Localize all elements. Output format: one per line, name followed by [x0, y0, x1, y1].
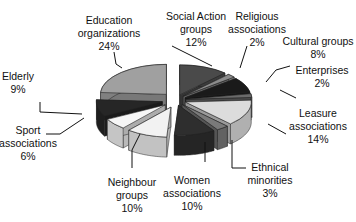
leader-line: [172, 46, 212, 66]
slice-label-line: Religious: [235, 10, 278, 22]
slice-percent: 3%: [262, 187, 277, 199]
slice-percent: 14%: [307, 133, 328, 145]
slice-label-line: Leasure: [299, 107, 337, 119]
slice-label-line: Sport: [15, 124, 40, 136]
slice-label-line: associations: [289, 120, 347, 132]
slice-label-line: Social Action: [166, 10, 226, 22]
slice-percent: 24%: [98, 40, 119, 52]
pie-slices: [96, 64, 251, 157]
leader-line: [232, 140, 246, 168]
slice-label-line: associations: [0, 137, 57, 149]
leader-line: [240, 46, 247, 68]
slice-percent: 10%: [181, 200, 202, 212]
slice-label-line: Cultural groups: [282, 35, 353, 47]
slice-label-line: minorities: [248, 174, 293, 186]
slice-label-line: Elderly: [2, 70, 35, 82]
slice-label: Social Actiongroups12%: [166, 10, 226, 48]
leader-line: [268, 124, 286, 134]
slice-label: Enterprises2%: [295, 64, 348, 89]
slice-label-line: Women: [174, 174, 210, 186]
slice-percent: 2%: [314, 77, 329, 89]
slice-label: Neighbourgroups10%: [108, 176, 157, 214]
slice-label-line: associations: [228, 23, 286, 35]
slice-label-line: Ethnical: [251, 161, 288, 173]
slice-percent: 2%: [249, 36, 264, 48]
leader-lines: [40, 46, 296, 168]
leader-line: [114, 52, 122, 68]
slice-label-line: organizations: [78, 27, 140, 39]
leader-line: [40, 102, 82, 114]
slice-side: [217, 126, 227, 149]
leader-line: [266, 66, 290, 82]
slice-label-line: groups: [116, 189, 148, 201]
slice-top: [101, 64, 167, 94]
slice-label: Elderly9%: [2, 70, 35, 95]
slice-label-line: Education: [86, 14, 133, 26]
slice-percent: 12%: [185, 36, 206, 48]
pie-chart: Social Actiongroups12%Religiousassociati…: [0, 0, 356, 222]
slice-label: Womenassociations10%: [163, 174, 221, 212]
slice-label: Ethnicalminorities3%: [248, 161, 293, 199]
slice-label: Sportassociations6%: [0, 124, 57, 162]
slice-percent: 10%: [121, 202, 142, 214]
slice-labels: Social Actiongroups12%Religiousassociati…: [0, 10, 354, 214]
slice-label-line: Neighbour: [108, 176, 157, 188]
slice-label: Religiousassociations2%: [228, 10, 286, 48]
slice-label: Cultural groups8%: [282, 35, 353, 60]
slice-label-line: groups: [180, 23, 212, 35]
slice-label-line: associations: [163, 187, 221, 199]
slice-percent: 8%: [310, 48, 325, 60]
leader-line: [46, 118, 84, 134]
slice-percent: 9%: [10, 83, 25, 95]
leader-line: [280, 90, 296, 98]
slice-label: Leasureassociations14%: [289, 107, 347, 145]
slice-label-line: Enterprises: [295, 64, 348, 76]
slice-label: Educationorganizations24%: [78, 14, 140, 52]
slice-percent: 6%: [20, 150, 35, 162]
